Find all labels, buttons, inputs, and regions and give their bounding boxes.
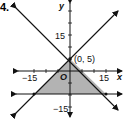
y-tick-15: 15 (55, 32, 65, 41)
line-y-eq-x-plus-5 (16, 11, 118, 113)
x-axis-label: x (117, 73, 122, 82)
y-axis-label: y (59, 2, 64, 11)
line-y-eq-neg-x-plus-5 (16, 8, 118, 110)
x-tick-neg15: −15 (22, 74, 37, 83)
origin-label: O (60, 73, 67, 82)
inequality-graph (0, 0, 125, 120)
vertex-label: (0, 5) (74, 55, 95, 64)
y-tick-neg15: −15 (53, 105, 68, 114)
vertex-point (68, 57, 72, 61)
x-tick-15: 15 (99, 74, 109, 83)
